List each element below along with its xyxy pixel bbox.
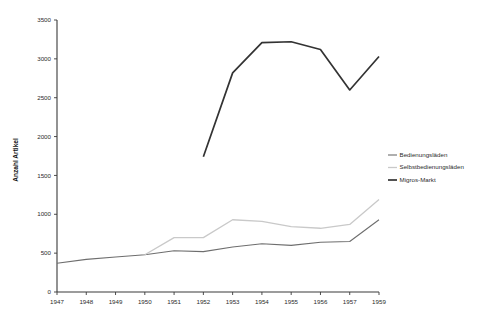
x-tick-label: 1948 bbox=[79, 298, 93, 305]
series-line bbox=[203, 42, 379, 157]
x-tick-label: 1959 bbox=[372, 298, 386, 305]
x-tick-label: 1955 bbox=[284, 298, 298, 305]
y-tick-label: 1000 bbox=[37, 210, 51, 217]
x-tick-label: 1957 bbox=[343, 298, 357, 305]
y-tick-label: 3000 bbox=[37, 55, 51, 62]
y-tick-label: 3500 bbox=[37, 16, 51, 23]
y-tick-label: 500 bbox=[41, 249, 52, 256]
y-tick-label: 0 bbox=[48, 288, 52, 295]
line-chart: 0500100015002000250030003500 19471948194… bbox=[0, 0, 499, 322]
series-line bbox=[145, 200, 379, 255]
x-tick-label: 1947 bbox=[50, 298, 64, 305]
chart-legend: BedienungslädenSelbstbedienungslädenMigr… bbox=[388, 151, 464, 183]
y-axis-title: Anzahl Artikel bbox=[12, 138, 19, 182]
x-tick-label: 1950 bbox=[138, 298, 152, 305]
chart-container: 0500100015002000250030003500 19471948194… bbox=[0, 0, 499, 322]
legend-item-label: Bedienungsläden bbox=[400, 151, 448, 158]
x-tick-label: 1956 bbox=[314, 298, 328, 305]
legend-item-label: Selbstbedienungsläden bbox=[400, 163, 465, 170]
x-tick-label: 1949 bbox=[109, 298, 123, 305]
x-tick-label: 1952 bbox=[196, 298, 210, 305]
x-tick-label: 1954 bbox=[255, 298, 269, 305]
y-tick-label: 2500 bbox=[37, 94, 51, 101]
y-tick-label: 1500 bbox=[37, 172, 51, 179]
y-axis: 0500100015002000250030003500 bbox=[37, 16, 57, 295]
x-tick-label: 1951 bbox=[167, 298, 181, 305]
x-tick-label: 1953 bbox=[226, 298, 240, 305]
y-tick-label: 2000 bbox=[37, 133, 51, 140]
x-axis: 1947194819491950195119521953195419551956… bbox=[50, 292, 386, 305]
series-lines bbox=[57, 42, 379, 263]
legend-item-label: Migros-Markt bbox=[400, 176, 436, 183]
